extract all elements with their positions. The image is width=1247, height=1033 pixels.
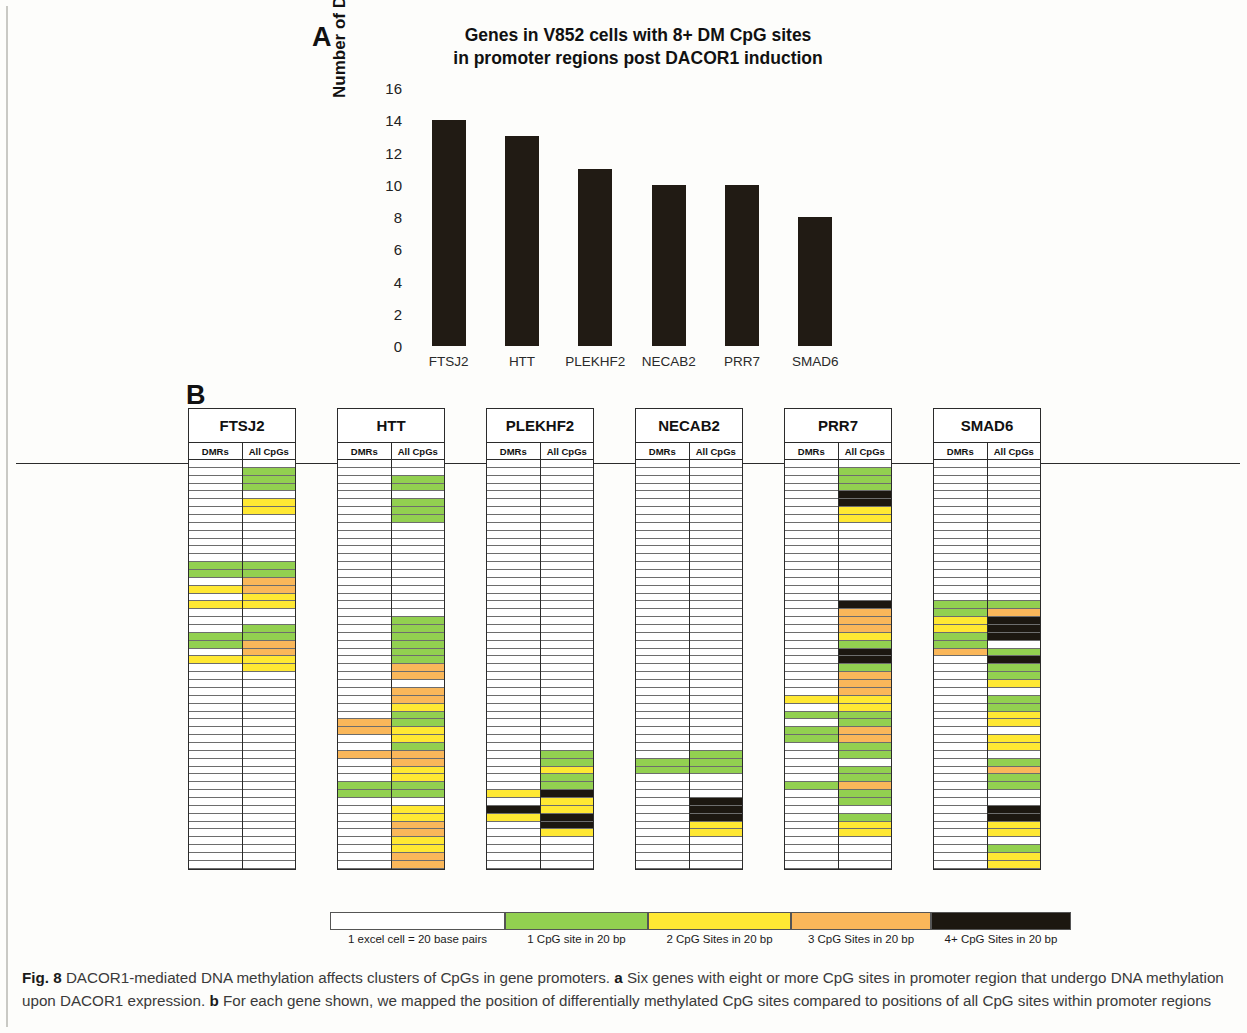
cpg-cell [243,688,296,696]
cpg-cell [487,649,540,657]
cpg-cell [487,539,540,547]
legend-swatch [791,912,931,930]
cpg-cell [487,704,540,712]
bar-plekhf2 [578,169,612,346]
cpg-cell [934,798,987,806]
cpg-cell [189,499,242,507]
caption-b-marker: b [209,992,218,1009]
cpg-cell [541,515,594,523]
cpg-cell [988,845,1041,853]
cpg-cell [487,562,540,570]
cpg-cell [338,625,391,633]
cpg-cell [338,814,391,822]
chart-title-line-2: in promoter regions post DACOR1 inductio… [408,47,868,70]
subcolumn-header-row: DMRsAll CpGs [188,443,296,460]
cpg-cell [243,853,296,861]
cpg-cell [392,759,445,767]
cpg-cell [934,578,987,586]
cpg-cell [338,649,391,657]
y-tick-label: 10 [368,176,402,193]
cpg-cell [487,743,540,751]
cpg-cell [243,578,296,586]
cpg-cell [785,507,838,515]
cpg-cell [487,554,540,562]
cpg-cell [338,617,391,625]
cpg-cell [338,664,391,672]
cpg-cell [541,601,594,609]
cpg-cell [338,476,391,484]
cpg-cell [189,546,242,554]
track-pair [784,460,892,870]
cpg-cell [934,641,987,649]
cpg-cell [988,806,1041,814]
cpg-cell [541,845,594,853]
cpg-cell [487,782,540,790]
cpg-cell [839,861,892,869]
cpg-cell [690,476,743,484]
cpg-cell [785,491,838,499]
cpg-cell [690,570,743,578]
cpg-cell [934,664,987,672]
cpg-cell [189,672,242,680]
cpg-cell [189,578,242,586]
cpg-cell [934,829,987,837]
cpg-cell [243,507,296,515]
cpg-cell [839,625,892,633]
cpg-cell [934,507,987,515]
bar-prr7 [725,185,759,346]
cpg-cell [988,578,1041,586]
cpg-cell [541,617,594,625]
track-all-cpgs [391,460,445,869]
cpg-cell [338,829,391,837]
cpg-cell [541,570,594,578]
cpg-cell [839,712,892,720]
cpg-cell [934,696,987,704]
figure-caption: Fig. 8 DACOR1-mediated DNA methylation a… [22,966,1237,1012]
cpg-cell [189,767,242,775]
cpg-cell [243,601,296,609]
cpg-cell [541,837,594,845]
cpg-cell [690,727,743,735]
cpg-cell [189,484,242,492]
cpg-cell [636,468,689,476]
cpg-cell [392,696,445,704]
cpg-cell [541,822,594,830]
cpg-cell [541,554,594,562]
cpg-cell [487,751,540,759]
cpg-cell [785,727,838,735]
cpg-cell [636,476,689,484]
cpg-cell [690,562,743,570]
cpg-cell [487,625,540,633]
y-tick-label: 4 [368,273,402,290]
cpg-cell [636,633,689,641]
cpg-cell [189,814,242,822]
cpg-cell [189,790,242,798]
cpg-cell [541,861,594,869]
cpg-cell [338,523,391,531]
cpg-cell [338,499,391,507]
cpg-cell [243,704,296,712]
cpg-cell [243,515,296,523]
cpg-cell [988,554,1041,562]
cpg-cell [785,719,838,727]
cpg-cell [243,814,296,822]
cpg-cell [839,688,892,696]
cpg-cell [541,476,594,484]
subcolumn-header-row: DMRsAll CpGs [933,443,1041,460]
subcolumn-label-all-cpgs: All CpGs [988,443,1042,460]
subcolumn-label-dmrs: DMRs [635,443,690,460]
legend: 1 excel cell = 20 base pairs1 CpG site i… [330,912,1071,945]
cpg-cell [636,460,689,468]
cpg-cell [189,845,242,853]
cpg-cell [338,822,391,830]
cpg-cell [839,759,892,767]
cpg-cell [338,641,391,649]
cpg-cell [636,546,689,554]
cpg-cell [541,743,594,751]
cpg-cell [338,491,391,499]
cpg-cell [392,782,445,790]
cpg-cell [636,719,689,727]
cpg-cell [690,837,743,845]
cpg-cell [785,546,838,554]
cpg-cell [690,609,743,617]
